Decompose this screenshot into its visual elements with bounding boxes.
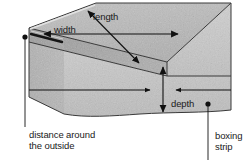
label-distance-around-the-outside: distance around the outside bbox=[29, 129, 95, 151]
figure-root: length width depth distance around the o… bbox=[0, 0, 252, 168]
annotation-distance-around bbox=[22, 34, 27, 127]
boxing-strip-dot bbox=[205, 101, 210, 106]
label-width: width bbox=[54, 24, 76, 35]
label-boxing-strip: boxing strip bbox=[215, 130, 242, 152]
label-length: length bbox=[93, 11, 118, 22]
box-solid bbox=[29, 3, 231, 116]
label-depth: depth bbox=[171, 98, 194, 109]
distance-around-dot bbox=[22, 34, 27, 39]
